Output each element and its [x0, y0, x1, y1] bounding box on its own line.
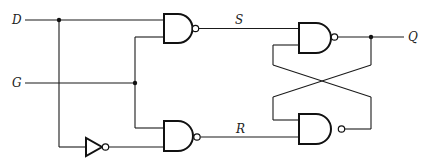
junction-d — [57, 18, 61, 22]
junction-g — [133, 81, 137, 85]
label-d: D — [11, 13, 22, 27]
nand-gate-1 — [164, 14, 299, 43]
d-latch-diagram: D G S R Q — [0, 0, 427, 168]
nand2-bubble-icon — [194, 134, 200, 140]
nand-gate-3 — [299, 23, 404, 53]
not-gate — [86, 138, 164, 156]
nand1-body-icon — [164, 14, 193, 43]
nand3-bubble-icon — [331, 34, 337, 40]
label-g: G — [12, 76, 22, 90]
label-r: R — [235, 122, 245, 136]
wire-g — [25, 37, 164, 128]
inverter-bubble-icon — [102, 144, 108, 150]
inverter-triangle-icon — [86, 138, 102, 156]
nand-gate-4 — [299, 114, 371, 144]
label-s: S — [235, 13, 243, 27]
nand4-bubble-icon — [338, 126, 344, 132]
nand4-body-icon — [299, 114, 331, 144]
label-q: Q — [408, 30, 418, 44]
nand3-body-icon — [299, 23, 331, 53]
nand2-body-icon — [164, 121, 193, 151]
nand1-bubble-icon — [192, 25, 198, 31]
nand-gate-2 — [164, 121, 299, 151]
